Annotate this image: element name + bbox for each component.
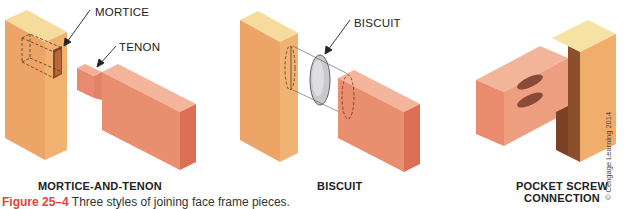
panel-title-biscuit: BISCUIT [317, 180, 362, 192]
figure-caption: Figure 25–4 Three styles of joining face… [2, 195, 290, 209]
callout-tenon: TENON [119, 41, 160, 53]
biscuit-stile [240, 11, 298, 162]
tenon-rail [77, 64, 196, 170]
panel-title-mortice-and-tenon: MORTICE-AND-TENON [38, 180, 162, 192]
callout-mortice: MORTICE [95, 6, 149, 18]
copyright-credit: © Cengage Learning 2014 [604, 112, 613, 200]
mortice-stile [5, 10, 67, 160]
callout-arrow-biscuit [325, 20, 350, 54]
biscuit-wafer [310, 55, 330, 105]
panel-title-line-1: POCKET SCREW [512, 180, 612, 192]
pocket-rail [476, 46, 568, 146]
callout-biscuit: BISCUIT [354, 17, 401, 29]
panel-title-pocket-screw: POCKET SCREW CONNECTION [512, 180, 612, 204]
joinery-illustration [0, 0, 626, 209]
caption-text: Three styles of joining face frame piece… [69, 195, 290, 209]
callout-arrows-1 [64, 10, 116, 67]
joinery-figure: MORTICE TENON BISCUIT MORTICE-AND-TENON … [0, 0, 626, 209]
panel-title-line-2: CONNECTION [512, 192, 612, 204]
biscuit-rail [338, 70, 420, 172]
figure-number: Figure 25–4 [2, 195, 69, 209]
